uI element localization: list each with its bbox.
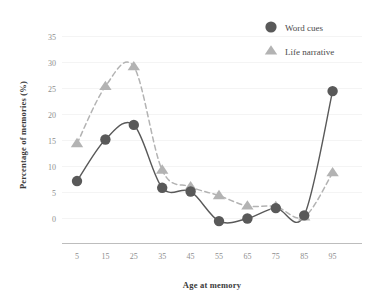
data-point-word-cues-85 [299,210,309,220]
x-tick-75: 75 [272,252,280,261]
data-point-word-cues-65 [242,213,252,223]
x-tick-85: 85 [300,252,308,261]
x-tick-25: 25 [130,252,138,261]
y-axis-title: Percentage of memories (%) [18,81,28,189]
x-tick-65: 65 [243,252,251,261]
x-tick-15: 15 [101,252,109,261]
legend-label-word-cues[interactable]: Word cues [285,23,324,33]
data-point-word-cues-5 [72,176,82,186]
x-axis-title: Age at memory [183,280,242,290]
data-point-word-cues-35 [157,183,167,193]
x-tick-95: 95 [329,252,337,261]
data-point-word-cues-15 [100,134,110,144]
x-tick-5: 5 [75,252,79,261]
legend-marker-word-cues[interactable] [265,21,276,32]
y-tick-30: 30 [48,59,56,68]
y-tick-25: 25 [48,85,56,94]
data-point-word-cues-95 [327,86,337,96]
chart-container: 05101520253035 5152535455565758595 Perce… [0,0,382,304]
data-point-word-cues-75 [271,203,281,213]
x-tick-55: 55 [215,252,223,261]
x-tick-35: 35 [158,252,166,261]
y-tick-15: 15 [48,137,56,146]
data-point-word-cues-25 [129,120,139,130]
y-tick-35: 35 [48,33,56,42]
memory-distribution-line-chart: 05101520253035 5152535455565758595 Perce… [0,0,382,304]
legend-label-life-narrative[interactable]: Life narrative [285,47,334,57]
y-tick-10: 10 [48,163,56,172]
data-point-word-cues-45 [185,186,195,196]
data-point-word-cues-55 [214,216,224,226]
y-tick-20: 20 [48,111,56,120]
y-tick-5: 5 [52,189,56,198]
y-tick-0: 0 [52,215,56,224]
x-tick-45: 45 [187,252,195,261]
